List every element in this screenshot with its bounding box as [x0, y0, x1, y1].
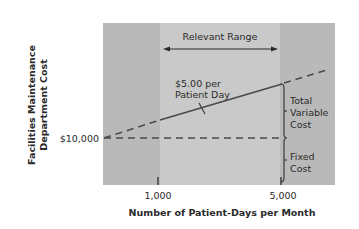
y-axis-title-line2: Department Cost	[38, 59, 49, 151]
slope-label-line1: $5.00 per	[175, 78, 221, 89]
fixed-cost-label-2: Cost	[290, 163, 311, 174]
total-variable-label-3: Cost	[290, 119, 311, 130]
relevant-range-band	[160, 23, 280, 185]
y-tick-label-10000: $10,000	[60, 133, 99, 144]
x-axis-title: Number of Patient-Days per Month	[129, 207, 316, 218]
slope-label-line2: Patient Day	[175, 89, 230, 100]
x-tick-label-5000: 5,000	[269, 190, 296, 201]
total-variable-label-1: Total	[289, 95, 312, 106]
x-tick-label-1000: 1,000	[144, 190, 171, 201]
y-axis-title-line1: Facilities Maintenance	[26, 45, 37, 165]
fixed-cost-label-1: Fixed	[290, 151, 315, 162]
cost-behavior-chart: Relevant Range $5.00 per Patient Day Tot…	[0, 0, 359, 229]
relevant-range-label: Relevant Range	[183, 31, 258, 42]
total-variable-label-2: Variable	[290, 107, 329, 118]
